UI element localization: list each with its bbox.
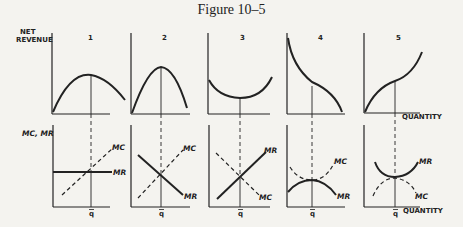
q-bar-1: q [89, 210, 94, 218]
panel-3-top-axes [208, 33, 272, 114]
q-bar-3: q [238, 210, 243, 218]
net-label-line2: REVENUE [16, 36, 53, 44]
panel-number-4: 4 [318, 34, 323, 42]
q-bar-labels: q q q q q [89, 210, 398, 219]
panel-1-mc-label: MC [112, 143, 125, 152]
panel-3-net-revenue-curve [209, 77, 272, 98]
panel-5-bottom [364, 125, 420, 207]
panel-4-mr-label: MR [337, 192, 350, 201]
panel-1-net-revenue-curve [53, 75, 125, 112]
panel-3-mr-label: MR [264, 146, 277, 155]
panel-5-mr-label: MR [419, 157, 432, 166]
panel-2-mr-line [138, 155, 183, 195]
panel-2-mr-label: MR [184, 192, 197, 201]
panel-number-1: 1 [88, 34, 93, 42]
panel-1-top-axes [52, 33, 125, 114]
net-label-line1: NET [20, 28, 36, 36]
q-bar-5: q [393, 210, 398, 218]
quantity-label-top: QUANTITY [402, 113, 443, 121]
panel-5-mr-curve [375, 162, 418, 177]
quantity-label-bottom: QUANTITY [403, 207, 444, 215]
panel-number-5: 5 [396, 34, 401, 42]
panel-2-bottom [131, 125, 190, 207]
panel-3-mr-line [217, 152, 266, 199]
mc-mr-axis-label: MC, MR [22, 129, 54, 138]
panel-3-mc-line [216, 153, 259, 195]
panel-4-net-revenue-curve [288, 38, 342, 112]
panel-2-top-axes [131, 33, 190, 114]
panel-4-mc-label: MC [334, 157, 347, 166]
figure-diagram: NET REVENUE MC, MR 1 2 3 4 5 QUANTITY QU… [0, 0, 463, 227]
q-bar-4: q [310, 210, 315, 218]
panel-4-top-axes [287, 33, 345, 114]
panel-2-net-revenue-curve [132, 67, 187, 113]
q-bar-2: q [159, 210, 164, 218]
q-connectors [91, 113, 395, 180]
panel-1-mr-label: MR [113, 168, 126, 177]
panel-2-mc-label: MC [183, 144, 196, 153]
panel-5-mc-label: MC [415, 192, 428, 201]
panel-5-net-revenue-curve [365, 52, 422, 112]
panel-1-bottom [53, 125, 113, 207]
panel-number-3: 3 [240, 34, 245, 42]
panel-5-mc-curve [373, 178, 416, 196]
panel-3-mc-label: MC [259, 193, 272, 202]
panel-number-2: 2 [162, 34, 167, 42]
panel-5-top-axes [364, 33, 422, 113]
